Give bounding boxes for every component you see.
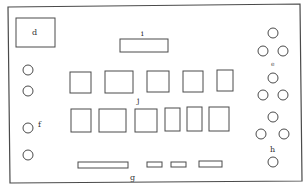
circle-e — [268, 73, 278, 83]
box-j-row2 — [71, 109, 91, 132]
box-group-j — [70, 70, 233, 132]
label-h: h — [270, 145, 275, 154]
circle-e — [258, 90, 268, 100]
box-g — [199, 161, 222, 167]
circle-f — [23, 123, 33, 133]
box-g — [147, 162, 162, 167]
label-i: i — [141, 29, 144, 38]
box-group-g — [78, 161, 222, 168]
circle-f — [23, 86, 33, 96]
box-j-row2 — [209, 107, 229, 131]
circle-e — [268, 28, 278, 38]
box-j-row2 — [165, 108, 180, 131]
box-j-row1 — [70, 72, 91, 93]
circle-h — [268, 157, 278, 167]
box-j-row2 — [99, 109, 126, 132]
circle-group-f — [23, 65, 33, 160]
label-f: f — [38, 120, 42, 129]
layout-diagram: d i j e f g h — [0, 0, 308, 192]
box-g — [78, 162, 128, 168]
circle-f — [23, 150, 33, 160]
label-j: j — [136, 96, 139, 105]
circle-h — [256, 129, 266, 139]
circle-f — [23, 65, 33, 75]
box-j-row1 — [105, 71, 133, 93]
box-i-group — [120, 39, 168, 52]
label-d: d — [32, 28, 37, 37]
circle-e — [278, 90, 288, 100]
box-i — [120, 39, 168, 52]
box-j-row1 — [183, 71, 203, 92]
label-e: e — [271, 60, 275, 67]
circle-h — [268, 112, 278, 122]
box-g — [171, 162, 186, 167]
label-g: g — [130, 173, 135, 182]
circle-h — [279, 129, 289, 139]
box-j-row2 — [135, 109, 157, 132]
box-j-row2 — [187, 107, 202, 131]
circle-e — [278, 46, 288, 56]
circle-group-h — [256, 112, 289, 167]
circle-e — [258, 46, 268, 56]
box-j-row1 — [147, 71, 169, 92]
box-j-row1 — [217, 70, 233, 91]
